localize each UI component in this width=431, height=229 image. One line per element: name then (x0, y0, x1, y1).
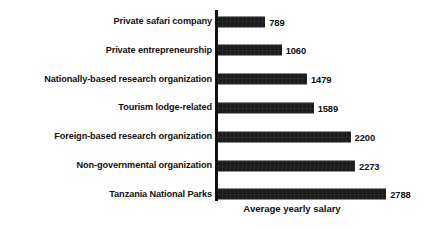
bar-value-label: 2200 (355, 131, 375, 142)
bar[interactable] (218, 160, 356, 171)
bar-track: 2200 (218, 131, 376, 142)
bar[interactable] (218, 189, 387, 200)
bar[interactable] (218, 45, 282, 56)
bar-value-label: 1479 (311, 74, 331, 85)
bar-value-label: 2788 (390, 189, 410, 200)
bar-track: 2273 (218, 160, 380, 171)
bar[interactable] (218, 74, 307, 85)
bar-row: Nationally-based research organization14… (0, 66, 431, 93)
axis-title: Average yearly salary (217, 203, 367, 214)
bar-chart: Private safari company789Private entrepr… (0, 0, 431, 229)
bar-track: 789 (218, 16, 285, 27)
bar-track: 1479 (218, 74, 332, 85)
bar-track: 1060 (218, 45, 307, 56)
bar-track: 1589 (218, 102, 339, 113)
category-label: Tanzania National Parks (2, 189, 212, 200)
bar[interactable] (218, 131, 351, 142)
bar-row: Foreign-based research organization2200 (0, 123, 431, 150)
bar-row: Private entrepreneurship1060 (0, 37, 431, 64)
bar-row: Tourism lodge-related1589 (0, 94, 431, 121)
bar[interactable] (218, 16, 266, 27)
bar-value-label: 2273 (359, 160, 379, 171)
bar-value-label: 1060 (286, 45, 306, 56)
bar[interactable] (218, 102, 314, 113)
bar-value-label: 1589 (318, 102, 338, 113)
bar-value-label: 789 (269, 16, 284, 27)
category-label: Non-governmental organization (2, 160, 212, 171)
category-label: Tourism lodge-related (2, 102, 212, 113)
bar-row: Non-governmental organization2273 (0, 152, 431, 179)
category-label: Private entrepreneurship (2, 45, 212, 56)
plot-area: Private safari company789Private entrepr… (0, 0, 431, 229)
bar-row: Private safari company789 (0, 8, 431, 35)
category-label: Private safari company (2, 16, 212, 27)
bar-track: 2788 (218, 189, 411, 200)
category-label: Nationally-based research organization (2, 74, 212, 85)
category-label: Foreign-based research organization (2, 131, 212, 142)
